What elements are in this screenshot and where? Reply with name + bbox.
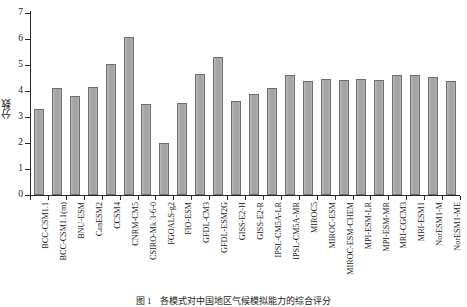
x-tick-label: GFDL-ESM2G xyxy=(221,202,229,253)
y-tick-label: 4 xyxy=(8,86,23,95)
x-tick-label: IPSL-CM5A-LR xyxy=(275,202,283,258)
x-tick-label: MRI-ESM1 xyxy=(418,202,426,241)
bar xyxy=(177,103,187,195)
bar xyxy=(321,79,331,195)
x-tick-label: CSIRO-Mk 3-6-0 xyxy=(150,202,158,260)
x-tick-mark xyxy=(191,196,192,200)
bar xyxy=(124,37,134,195)
x-tick-mark xyxy=(48,196,49,200)
y-tick-label: 1 xyxy=(8,164,23,173)
bar xyxy=(213,57,223,195)
bar xyxy=(339,80,349,195)
bar-chart-figure: 分数 01234567 BCC-CSM1.1BCC-CSM1.1(m)BNU-E… xyxy=(0,0,467,307)
bar xyxy=(88,87,98,195)
x-tick-mark xyxy=(353,196,354,200)
x-tick-mark xyxy=(102,196,103,200)
bar xyxy=(34,109,44,195)
bar xyxy=(195,74,205,195)
x-tick-label: GFDL-CM3 xyxy=(203,202,211,243)
bar xyxy=(249,94,259,195)
y-tick-mark xyxy=(25,13,30,14)
x-tick-mark xyxy=(120,196,121,200)
x-tick-mark xyxy=(442,196,443,200)
y-tick-mark xyxy=(25,143,30,144)
y-tick-label: 0 xyxy=(8,190,23,199)
x-tick-mark xyxy=(281,196,282,200)
x-tick-mark xyxy=(245,196,246,200)
x-tick-mark xyxy=(155,196,156,200)
bar xyxy=(446,81,456,195)
bar xyxy=(141,104,151,195)
x-tick-label: NorESM1-M xyxy=(436,202,444,246)
x-tick-label: GISS-E2-H xyxy=(239,202,247,240)
bar xyxy=(267,88,277,195)
y-tick-label: 7 xyxy=(8,8,23,17)
x-tick-label: CNRM-CM5 xyxy=(132,202,140,246)
y-tick-label: 3 xyxy=(8,112,23,121)
bar xyxy=(231,101,241,195)
x-tick-mark xyxy=(370,196,371,200)
x-tick-label: BNU-ESM xyxy=(78,202,86,239)
x-tick-label: FIO-ESM xyxy=(185,202,193,235)
x-tick-mark xyxy=(335,196,336,200)
bar xyxy=(356,79,366,195)
x-tick-label: CanESM2 xyxy=(96,202,104,236)
x-tick-label: GISS-E2-R xyxy=(257,202,265,240)
y-tick-mark xyxy=(25,117,30,118)
y-tick-label: 5 xyxy=(8,60,23,69)
bar xyxy=(285,75,295,195)
x-tick-mark xyxy=(66,196,67,200)
x-tick-mark xyxy=(317,196,318,200)
x-tick-mark xyxy=(388,196,389,200)
x-tick-mark xyxy=(84,196,85,200)
bar xyxy=(70,96,80,195)
x-tick-label: CCSM4 xyxy=(114,202,122,229)
y-axis-line xyxy=(30,11,31,196)
figure-caption: 图 1 各模式对中国地区气候模拟能力的综合评分 xyxy=(0,296,467,307)
x-tick-label: MIROC-ESM xyxy=(329,202,337,248)
x-tick-label: MPI-ESM-MR xyxy=(383,202,391,252)
bar xyxy=(303,81,313,195)
x-tick-mark xyxy=(460,196,461,200)
x-tick-mark xyxy=(299,196,300,200)
y-tick-mark xyxy=(25,169,30,170)
bar xyxy=(159,143,169,195)
y-tick-mark xyxy=(25,39,30,40)
x-tick-mark xyxy=(227,196,228,200)
x-tick-label: MPI-ESM-LR xyxy=(365,202,373,249)
x-tick-mark xyxy=(263,196,264,200)
bar xyxy=(428,77,438,195)
x-tick-mark xyxy=(406,196,407,200)
x-tick-label: FGOALS-g2 xyxy=(168,202,176,245)
x-tick-label: MIROC-ESM-CHEM xyxy=(347,202,355,275)
bar xyxy=(106,64,116,195)
x-tick-label: MIROC5 xyxy=(311,202,319,233)
bar xyxy=(52,88,62,195)
x-tick-mark xyxy=(424,196,425,200)
y-tick-label: 2 xyxy=(8,138,23,147)
y-tick-label: 6 xyxy=(8,34,23,43)
x-tick-label: IPSL-CM5A-MR xyxy=(293,202,301,260)
bar xyxy=(374,80,384,195)
bar xyxy=(392,75,402,195)
x-tick-mark xyxy=(173,196,174,200)
x-tick-label: NorESM1-ME xyxy=(454,202,462,251)
x-tick-mark xyxy=(209,196,210,200)
bar xyxy=(410,75,420,195)
x-tick-label: BCC-CSM1.1 xyxy=(42,202,50,249)
x-tick-label: MRI-CGCM3 xyxy=(400,202,408,248)
x-tick-mark xyxy=(30,196,31,200)
y-tick-mark xyxy=(25,91,30,92)
x-tick-label: BCC-CSM1.1(m) xyxy=(60,202,68,260)
y-tick-mark xyxy=(25,65,30,66)
x-tick-mark xyxy=(138,196,139,200)
